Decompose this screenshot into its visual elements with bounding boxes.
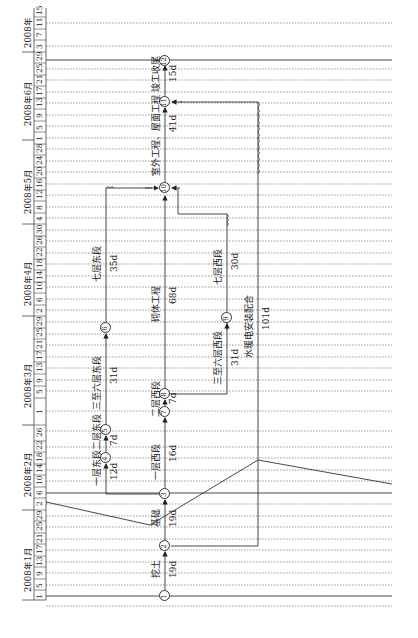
network-diagram: 2008年1月 2008年2月 2008年3月 2008年4月 2008年5月 … (0, 0, 418, 638)
activity-duration: 19d (168, 561, 178, 578)
day-tick: 21 (36, 533, 44, 543)
month-label-feb: 2008年2月 (21, 452, 33, 497)
activity-duration: 31d (109, 367, 119, 384)
activity-duration: 35d (109, 255, 119, 272)
node-6: 6 (100, 322, 111, 333)
day-tick: 17 (36, 86, 44, 96)
node-2: 2 (159, 540, 170, 551)
activity-duration: 7d (168, 393, 178, 405)
day-tick: 6 (36, 490, 44, 495)
activity-name: 砌体工程 (151, 286, 161, 322)
activity-name: 水暖电安装配合 (244, 295, 254, 358)
day-tick: 2 (36, 308, 44, 313)
day-tick: 1 (36, 594, 44, 599)
activity-name: 二层东段 (92, 414, 102, 450)
month-label-mar: 2008年3月 (21, 363, 33, 408)
activity-name: 一层西段 (151, 444, 161, 480)
month-label-apr: 2008年4月 (21, 261, 33, 306)
day-tick: 9 (36, 113, 44, 118)
activity-duration: 12d (109, 463, 119, 480)
day-tick: 30 (36, 224, 44, 234)
day-tick: 13 (36, 556, 44, 566)
day-tick: 21 (36, 74, 44, 84)
day-tick: 10 (36, 475, 44, 485)
day-tick: 25 (36, 521, 44, 531)
day-tick: 29 (36, 510, 44, 520)
month-label-jun: 2008年6月 (21, 81, 33, 126)
day-tick: 20 (36, 166, 44, 176)
day-tick: 3 (36, 44, 44, 49)
activity-duration: 101d (261, 307, 271, 330)
node-10: 10 (159, 182, 170, 193)
node-1: 1 (159, 590, 170, 601)
day-tick: 28 (36, 143, 44, 153)
node-9: 9 (221, 312, 232, 323)
day-tick: 26 (36, 235, 44, 245)
day-tick: 14 (36, 463, 44, 473)
activity-name: 三至六层西段 (213, 331, 223, 385)
day-tick: 13 (36, 97, 44, 107)
day-tick: 26 (36, 427, 44, 437)
day-tick: 21 (36, 339, 44, 349)
day-tick: 5 (36, 583, 44, 588)
activity-name: 三至六层东段 (92, 356, 102, 410)
day-tick: 11 (36, 17, 44, 27)
day-tick: 29 (36, 51, 44, 61)
day-tick: 4 (36, 216, 44, 221)
day-tick: 5 (36, 389, 44, 394)
activity-duration: 19d (168, 510, 178, 527)
activity-name: 一层东段 (92, 450, 102, 486)
activity-duration: 16d (168, 445, 178, 462)
activity-name: 基础 (151, 509, 161, 527)
day-tick: 5 (36, 125, 44, 130)
month-label-jul: 2008年 (21, 17, 33, 48)
day-tick: 17 (36, 350, 44, 360)
activity-duration: 15d (168, 65, 178, 82)
day-tick: 10 (36, 281, 44, 291)
day-tick: 8 (36, 205, 44, 210)
diagram-lines (0, 0, 418, 638)
day-tick: 12 (36, 189, 44, 199)
activity-duration: 31d (230, 349, 240, 366)
activity-duration: 41d (168, 115, 178, 132)
month-label-may: 2008年5月 (21, 169, 33, 214)
day-tick: 6 (36, 297, 44, 302)
day-tick: 24 (36, 155, 44, 165)
day-tick: 7 (36, 32, 44, 37)
activity-duration: 68d (168, 287, 178, 304)
activity-name: 挖土 (151, 560, 161, 578)
activity-duration: 7d (109, 435, 119, 447)
day-tick: 22 (36, 440, 44, 450)
day-tick: 14 (36, 270, 44, 280)
day-tick: 1 (36, 136, 44, 141)
day-tick: 29 (36, 316, 44, 326)
day-tick: 22 (36, 247, 44, 257)
day-tick: 9 (36, 378, 44, 383)
day-tick: 2 (36, 501, 44, 506)
activity-name: 七层西段 (213, 249, 223, 285)
activity-name: 竣工收尾 (151, 56, 161, 92)
day-tick: 17 (36, 544, 44, 554)
day-tick: 13 (36, 362, 44, 372)
day-tick: 15 (36, 5, 44, 15)
day-tick: 16 (36, 178, 44, 188)
day-tick: 25 (36, 327, 44, 337)
day-tick: 25 (36, 63, 44, 73)
day-tick: 1 (36, 409, 44, 414)
activity-name: 二层西段 (151, 381, 161, 417)
node-3: 3 (159, 488, 170, 499)
day-tick: 18 (36, 452, 44, 462)
activity-name: 室外工程、屋面工程 (151, 95, 161, 176)
month-label-jan: 2008年1月 (21, 547, 33, 592)
day-tick: 18 (36, 258, 44, 268)
day-tick: 9 (36, 571, 44, 576)
activity-duration: 30d (230, 253, 240, 270)
activity-name: 七层东段 (92, 246, 102, 282)
